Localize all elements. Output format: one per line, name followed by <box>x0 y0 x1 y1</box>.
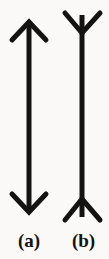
panel-a-arrow <box>12 22 46 212</box>
panel-b-arrow <box>65 13 100 220</box>
figure-label-a: (a) <box>0 231 58 250</box>
figure-label-row: (a) (b) <box>0 225 109 255</box>
illusion-drawing <box>0 0 109 259</box>
figure-label-b: (b) <box>58 231 109 250</box>
muller-lyer-figure: (a) (b) <box>0 0 109 259</box>
